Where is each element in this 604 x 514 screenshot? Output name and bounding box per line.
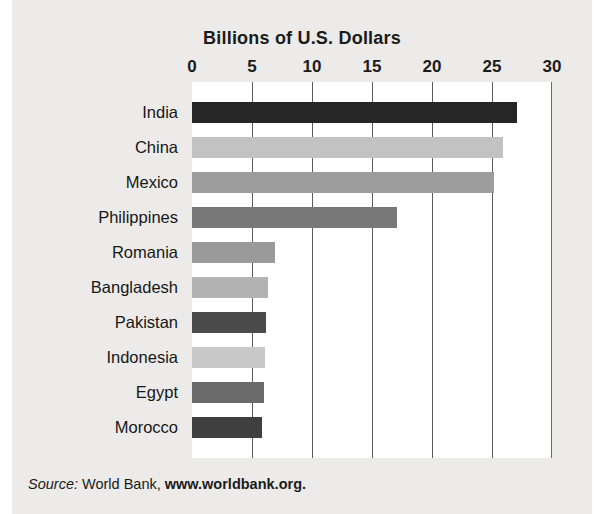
bar-row — [192, 137, 552, 158]
chart-title: Billions of U.S. Dollars — [0, 28, 604, 49]
source-note: Source: World Bank, www.worldbank.org. — [28, 476, 306, 492]
x-tick-label-20: 20 — [423, 57, 442, 77]
bar-row — [192, 207, 552, 228]
bar-row — [192, 417, 552, 438]
category-label-bangladesh: Bangladesh — [91, 277, 178, 298]
category-label-morocco: Morocco — [115, 417, 178, 438]
category-label-mexico: Mexico — [126, 172, 178, 193]
source-prefix: Source: — [28, 476, 78, 492]
bar-row — [192, 347, 552, 368]
x-tick-label-15: 15 — [363, 57, 382, 77]
figure-page: Billions of U.S. Dollars 051015202530 In… — [0, 0, 604, 514]
category-label-india: India — [142, 102, 178, 123]
source-organization: World Bank, — [82, 476, 161, 492]
bar-india — [192, 102, 517, 123]
bar-row — [192, 172, 552, 193]
bar-romania — [192, 242, 275, 263]
x-tick-label-25: 25 — [483, 57, 502, 77]
bar-chart-figure: Billions of U.S. Dollars 051015202530 In… — [0, 0, 604, 514]
bar-row — [192, 102, 552, 123]
source-url: www.worldbank.org. — [165, 476, 306, 492]
bar-mexico — [192, 172, 494, 193]
bar-row — [192, 242, 552, 263]
x-tick-label-5: 5 — [247, 57, 256, 77]
plot-area — [192, 82, 552, 458]
bar-egypt — [192, 382, 264, 403]
x-axis-tick-labels: 051015202530 — [0, 57, 604, 79]
category-label-pakistan: Pakistan — [115, 312, 178, 333]
bar-row — [192, 382, 552, 403]
bar-row — [192, 277, 552, 298]
y-axis-category-labels: IndiaChinaMexicoPhilippinesRomaniaBangla… — [0, 82, 186, 458]
x-tick-label-10: 10 — [303, 57, 322, 77]
bar-indonesia — [192, 347, 265, 368]
category-label-romania: Romania — [112, 242, 178, 263]
bar-pakistan — [192, 312, 266, 333]
category-label-philippines: Philippines — [98, 207, 178, 228]
x-tick-label-0: 0 — [187, 57, 196, 77]
bar-china — [192, 137, 503, 158]
bar-bangladesh — [192, 277, 268, 298]
x-tick-label-30: 30 — [543, 57, 562, 77]
category-label-china: China — [135, 137, 178, 158]
bar-morocco — [192, 417, 262, 438]
category-label-indonesia: Indonesia — [106, 347, 178, 368]
bar-philippines — [192, 207, 397, 228]
bar-row — [192, 312, 552, 333]
category-label-egypt: Egypt — [136, 382, 178, 403]
